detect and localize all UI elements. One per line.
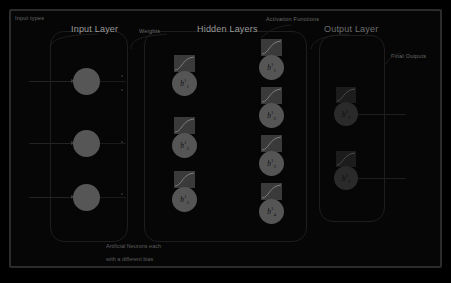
caption-hidden-layers: Hidden Layers — [197, 24, 258, 34]
activation-tile-h2-0 — [261, 39, 282, 56]
final-output-line-2 — [358, 178, 406, 179]
weight-line-1 — [100, 81, 126, 82]
footnote-line-1: Artificial Neurons each — [106, 243, 161, 249]
input-arrow-line-3 — [29, 197, 73, 198]
hidden1-neuron-1[interactable]: b11 — [172, 71, 197, 96]
hidden2-neuron-2-label: b12 — [267, 110, 276, 121]
weight-line-3 — [100, 197, 126, 198]
hidden1-neuron-3-label: b13 — [180, 194, 189, 205]
hidden2-neuron-4-label: b14 — [267, 206, 276, 217]
activation-tile-h1-1 — [174, 55, 195, 72]
activation-tile-h2-3 — [261, 183, 282, 200]
caption-input-types: Input types — [15, 15, 44, 21]
output-layer-group-box — [319, 35, 385, 222]
weight-line-2 — [100, 143, 126, 144]
final-output-line-1 — [358, 114, 406, 115]
caption-activation-functions: Activation Functions — [266, 16, 319, 22]
leader-line-weights — [131, 33, 171, 49]
hidden1-neuron-2-label: b12 — [180, 140, 189, 151]
hidden1-neuron-3[interactable]: b13 — [172, 187, 197, 212]
leader-line-final-outputs — [385, 51, 403, 65]
activation-tile-h2-2 — [261, 135, 282, 152]
leader-line-input-layer — [50, 33, 100, 49]
input-arrow-line-1 — [29, 81, 73, 82]
hidden2-neuron-2[interactable]: b12 — [259, 103, 284, 128]
weight-dot-1 — [121, 75, 123, 77]
weight-dot-4 — [121, 193, 123, 195]
output-neuron-2-label: b22 — [342, 173, 351, 184]
activation-tile-h2-1 — [261, 87, 282, 104]
screenshot-canvas: Input types Input Layer Weights Hidden L… — [0, 0, 451, 283]
hidden2-neuron-3-label: b13 — [267, 158, 276, 169]
hidden2-neuron-4[interactable]: b14 — [259, 199, 284, 224]
hidden2-neuron-1-label: b11 — [267, 62, 276, 73]
input-neuron-2[interactable] — [73, 130, 100, 157]
activation-tile-h1-3 — [174, 171, 195, 188]
hidden2-neuron-3[interactable]: b13 — [259, 151, 284, 176]
hidden1-neuron-1-label: b11 — [180, 78, 189, 89]
output-neuron-1[interactable]: b21 — [334, 102, 358, 126]
neural-network-diagram: Input types Input Layer Weights Hidden L… — [11, 11, 440, 266]
activation-tile-h1-2 — [174, 117, 195, 134]
input-arrow-line-2 — [29, 143, 73, 144]
activation-tile-out-2 — [336, 151, 356, 167]
hidden2-neuron-1[interactable]: b11 — [259, 55, 284, 80]
leader-line-activation-functions — [259, 25, 293, 39]
output-neuron-2[interactable]: b22 — [334, 166, 358, 190]
input-neuron-3[interactable] — [73, 184, 100, 211]
weight-dot-2 — [121, 89, 123, 91]
activation-tile-out-1 — [336, 87, 356, 103]
hidden1-neuron-2[interactable]: b12 — [172, 133, 197, 158]
output-neuron-1-label: b21 — [342, 109, 351, 120]
footnote-line-2: with a different bias — [106, 256, 153, 262]
input-neuron-1[interactable] — [73, 68, 100, 95]
leader-line-output-layer — [311, 33, 351, 49]
